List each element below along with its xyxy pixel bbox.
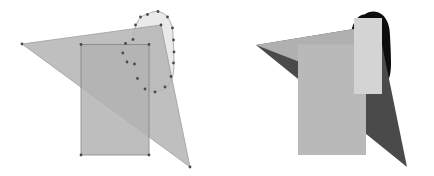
vertex-dot: [148, 154, 151, 157]
vertex-dot: [172, 39, 175, 42]
vertex-dot: [171, 27, 174, 30]
vertex-dot: [132, 38, 135, 41]
vertex-dot: [164, 86, 167, 89]
vertex-dot: [80, 154, 83, 157]
vertex-dot: [148, 43, 151, 46]
vertex-dot: [139, 16, 142, 19]
vertex-dot: [146, 13, 149, 16]
vertex-dot: [189, 166, 192, 169]
vertex-dot: [154, 91, 157, 94]
vertex-dot: [133, 63, 136, 66]
vertex-dot: [166, 16, 169, 19]
vertex-dot: [160, 24, 163, 27]
vertex-dot: [170, 75, 173, 78]
vertex-dot: [126, 61, 129, 64]
vertex-dot: [157, 10, 160, 13]
figure-panel: [0, 0, 434, 176]
right-figure-filled-shapes: [217, 0, 434, 176]
rectangle: [81, 45, 149, 156]
vertex-dot: [136, 77, 139, 80]
vertex-dot: [134, 24, 137, 27]
vertex-dot: [144, 88, 147, 91]
vertex-dot: [21, 43, 24, 46]
left-figure-outlined-shapes: [0, 0, 217, 176]
rectangle-highlight: [354, 18, 382, 94]
vertex-dot: [121, 52, 124, 55]
vertex-dot: [173, 51, 176, 54]
vertex-dot: [124, 42, 127, 45]
vertex-dot: [80, 43, 83, 46]
vertex-dot: [172, 62, 175, 65]
